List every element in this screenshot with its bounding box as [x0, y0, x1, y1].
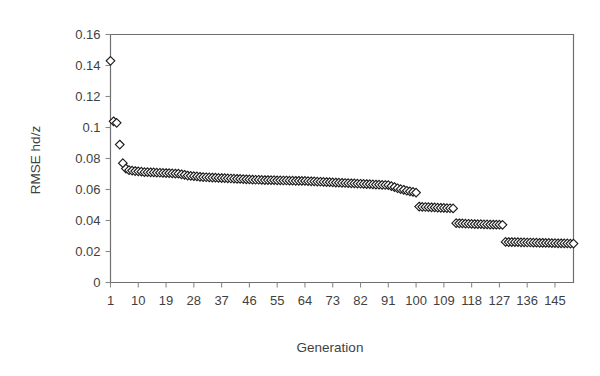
x-tick-label: 109 [433, 293, 455, 308]
y-tick-label: 0.14 [75, 58, 100, 73]
y-tick-label: 0.04 [75, 213, 100, 228]
chart-container: 00.020.040.060.080.10.120.140.16 1101928… [0, 0, 600, 376]
y-tick-label: 0.1 [82, 120, 100, 135]
y-axis-tick-labels: 00.020.040.060.080.10.120.140.16 [75, 27, 100, 290]
x-tick-label: 1 [107, 293, 114, 308]
x-tick-label: 19 [159, 293, 173, 308]
x-tick-label: 73 [326, 293, 340, 308]
y-tick-label: 0.08 [75, 151, 100, 166]
x-tick-label: 10 [131, 293, 145, 308]
x-tick-label: 46 [242, 293, 256, 308]
rmse-vs-generation-scatter-chart: 00.020.040.060.080.10.120.140.16 1101928… [0, 0, 600, 376]
x-tick-label: 55 [270, 293, 284, 308]
y-tick-label: 0.02 [75, 244, 100, 259]
x-axis-title: Generation [297, 340, 364, 355]
y-tick-label: 0.06 [75, 182, 100, 197]
x-tick-label: 145 [544, 293, 566, 308]
x-tick-label: 127 [489, 293, 511, 308]
x-tick-label: 82 [353, 293, 367, 308]
x-tick-label: 91 [381, 293, 395, 308]
x-tick-label: 118 [461, 293, 482, 308]
y-tick-label: 0 [93, 275, 100, 290]
x-tick-label: 37 [214, 293, 228, 308]
x-tick-label: 136 [516, 293, 538, 308]
y-axis-title: RMSE hd/z [28, 126, 43, 195]
y-tick-label: 0.16 [75, 27, 100, 42]
x-tick-label: 100 [405, 293, 427, 308]
x-tick-label: 28 [187, 293, 201, 308]
y-tick-label: 0.12 [75, 89, 100, 104]
x-tick-label: 64 [298, 293, 312, 308]
